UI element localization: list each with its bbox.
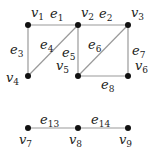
node-label-v1: v1 — [31, 5, 44, 22]
node-label-v4: v4 — [6, 70, 19, 87]
edge-e6 — [78, 25, 128, 76]
node-v1 — [25, 22, 31, 28]
node-v6 — [125, 73, 131, 79]
edge-label-e14: e14 — [91, 112, 110, 129]
node-v9 — [125, 125, 131, 131]
node-v8 — [75, 125, 81, 131]
edge-label-e13: e13 — [40, 112, 59, 129]
node-label-v9: v9 — [119, 132, 132, 149]
node-label-v5: v5 — [56, 58, 69, 75]
graph-svg: e1e2e3e4e5e6e7e8e13e14v1v2v3v4v5v6v7v8v9 — [0, 0, 155, 152]
edge-label-e8: e8 — [101, 77, 115, 94]
node-label-v8: v8 — [69, 132, 82, 149]
node-v7 — [25, 125, 31, 131]
node-v4 — [25, 73, 31, 79]
edge-label-e1: e1 — [50, 6, 63, 23]
node-v2 — [75, 22, 81, 28]
node-label-v6: v6 — [135, 58, 148, 75]
node-label-v3: v3 — [131, 5, 144, 22]
edge-label-e4: e4 — [40, 37, 54, 54]
node-v3 — [125, 22, 131, 28]
graph-diagram: e1e2e3e4e5e6e7e8e13e14v1v2v3v4v5v6v7v8v9 — [0, 0, 155, 152]
edge-label-e2: e2 — [99, 6, 112, 23]
edge-label-e5: e5 — [62, 45, 76, 62]
node-label-v2: v2 — [81, 5, 94, 22]
edge-label-e3: e3 — [10, 42, 24, 59]
node-label-v7: v7 — [19, 132, 32, 149]
node-v5 — [75, 73, 81, 79]
edge-label-e6: e6 — [88, 37, 102, 54]
